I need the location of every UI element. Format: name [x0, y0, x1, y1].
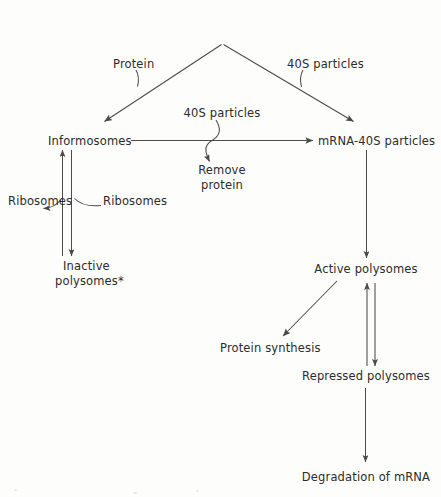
scan-artifact [133, 492, 137, 494]
flowchart-diagram: Protein 40S particles 40S particles Info… [0, 0, 441, 497]
tick-40s-right-label [300, 70, 303, 87]
label-40s-particles-right: 40S particles [287, 57, 364, 71]
arrow-ribosomes-right-in [75, 199, 102, 206]
diagram-vector-layer [0, 0, 441, 497]
node-repressed-polysomes: Repressed polysomes [302, 369, 430, 383]
scan-artifact [14, 489, 17, 491]
node-active-polysomes: Active polysomes [314, 262, 417, 276]
node-inactive-polysomes-line1: Inactive [63, 259, 110, 273]
label-ribosomes-left: Ribosomes [8, 194, 72, 208]
node-remove-protein-line2: protein [201, 178, 243, 192]
label-ribosomes-right: Ribosomes [103, 194, 167, 208]
label-40s-particles-mid: 40S particles [184, 106, 261, 120]
node-mrna-40s-particles: mRNA-40S particles [318, 134, 435, 148]
node-informosomes: Informosomes [48, 134, 132, 148]
node-inactive-polysomes-line2: polysomes* [55, 274, 124, 288]
label-protein: Protein [113, 57, 154, 71]
node-protein-synthesis: Protein synthesis [220, 341, 321, 355]
node-degradation-of-mrna: Degradation of mRNA [302, 470, 430, 484]
tick-protein-label [136, 70, 139, 87]
scan-artifact [196, 490, 199, 492]
node-remove-protein-line1: Remove [198, 163, 246, 177]
arrow-active-to-protein-synthesis [283, 281, 337, 336]
